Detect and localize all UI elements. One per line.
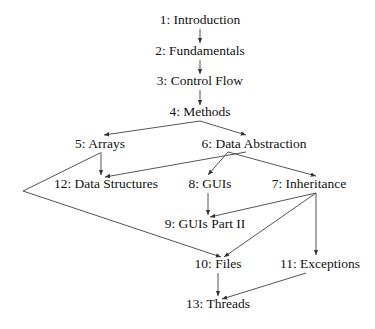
node-threads: 13: Threads: [186, 296, 250, 311]
node-files: 10: Files: [195, 256, 242, 271]
node-data-abstraction: 6: Data Abstraction: [202, 136, 307, 151]
node-methods: 4: Methods: [169, 104, 230, 119]
node-control-flow: 3: Control Flow: [157, 73, 244, 88]
edge-6-7-arrow: [228, 152, 316, 176]
edge-7-9-arrow: [210, 193, 316, 217]
node-arrays: 5: Arrays: [75, 136, 125, 151]
node-exceptions: 11: Exceptions: [280, 256, 360, 271]
node-guis-part-ii: 9: GUIs Part II: [165, 216, 246, 231]
edge-5-10-arrow: [23, 153, 221, 257]
edges: [23, 29, 316, 299]
node-fundamentals: 2: Fundamentals: [155, 43, 245, 58]
edge-4-5-arrow: [104, 121, 200, 135]
edge-6-8-arrow: [208, 152, 228, 175]
node-introduction: 1: Introduction: [160, 12, 241, 27]
node-data-structures: 12: Data Structures: [54, 176, 158, 191]
nodes: 1: Introduction 2: Fundamentals 3: Contr…: [54, 12, 360, 311]
chapter-dependency-diagram: 1: Introduction 2: Fundamentals 3: Contr…: [0, 0, 375, 329]
node-guis: 8: GUIs: [188, 176, 231, 191]
node-inheritance: 7: Inheritance: [272, 176, 347, 191]
edge-4-6-arrow: [200, 121, 246, 135]
